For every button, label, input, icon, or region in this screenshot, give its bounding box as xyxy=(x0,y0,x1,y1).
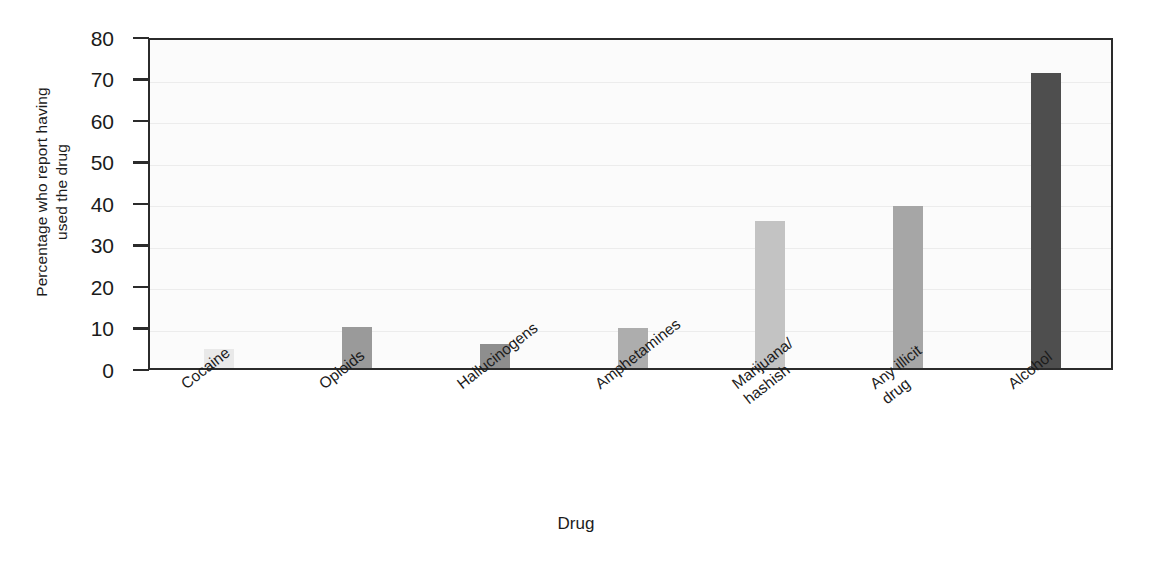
y-axis-title-line-1: Percentage who report having xyxy=(32,87,52,297)
gridline xyxy=(150,82,1111,83)
y-tick-mark xyxy=(133,369,149,371)
gridline xyxy=(150,123,1111,124)
plot-inner xyxy=(150,40,1111,368)
gridline xyxy=(150,248,1111,249)
gridline xyxy=(150,289,1111,290)
plot-area xyxy=(148,38,1113,370)
y-tick-mark xyxy=(133,327,149,329)
y-tick-mark xyxy=(133,244,149,246)
y-tick-label: 50 xyxy=(68,152,114,173)
gridline xyxy=(150,165,1111,166)
y-tick-label: 60 xyxy=(68,111,114,132)
y-tick-label: 10 xyxy=(68,318,114,339)
y-tick-mark xyxy=(133,286,149,288)
y-tick-mark xyxy=(133,37,149,39)
y-tick-label: 0 xyxy=(68,360,114,381)
y-tick-label: 40 xyxy=(68,194,114,215)
y-tick-label: 80 xyxy=(68,28,114,49)
y-tick-mark xyxy=(133,161,149,163)
bar-chart-figure: Percentage who report having used the dr… xyxy=(0,0,1152,572)
y-tick-mark xyxy=(133,203,149,205)
bar-alcohol xyxy=(1031,73,1061,368)
gridline xyxy=(150,206,1111,207)
y-tick-label: 70 xyxy=(68,69,114,90)
y-tick-label: 20 xyxy=(68,277,114,298)
y-tick-mark xyxy=(133,120,149,122)
x-axis-title: Drug xyxy=(0,514,1152,534)
y-tick-mark xyxy=(133,78,149,80)
y-tick-label: 30 xyxy=(68,235,114,256)
